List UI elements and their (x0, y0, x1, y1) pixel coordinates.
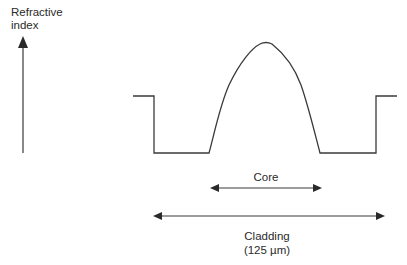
y-axis-label-line1: Refractive (11, 6, 63, 18)
cladding-width-arrow-icon (153, 212, 385, 220)
cladding-label: Cladding (244, 230, 289, 242)
cladding-size-label: (125 µm) (244, 244, 290, 256)
core-label: Core (254, 171, 279, 183)
index-profile-curve (133, 43, 397, 154)
core-width-arrow-icon (210, 184, 322, 192)
y-axis-arrow-icon (18, 36, 28, 153)
refractive-index-profile-diagram: Refractive index Core Cladding (125 µm) (0, 0, 407, 265)
y-axis-label-line2: index (11, 19, 39, 31)
